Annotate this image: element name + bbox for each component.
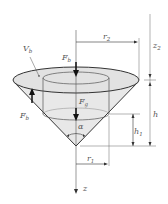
h-arrow-bottom	[149, 142, 152, 146]
r2-arrowhead	[134, 41, 138, 44]
z-axis-arrow	[74, 189, 78, 194]
label-r2: r2	[103, 32, 111, 42]
label-z: z	[82, 184, 88, 193]
label-z2: z2	[152, 41, 161, 51]
z2-arrow-bottom	[149, 74, 152, 78]
label-fb-left: Fb	[19, 111, 30, 121]
cone-buoyancy-diagram: Vb Fb Fg Fb α r2 z2 h h1 r1 z	[0, 0, 168, 204]
label-h: h	[153, 110, 158, 119]
vb-leader-dot	[38, 75, 40, 77]
h1-arrow-bottom	[132, 142, 135, 146]
label-alpha: α	[78, 122, 84, 131]
label-vb: Vb	[23, 44, 33, 54]
r1-arrowhead	[104, 163, 108, 166]
label-fb-top: Fb	[61, 53, 72, 63]
label-h1: h1	[134, 127, 143, 137]
h1-arrow-top	[132, 114, 135, 118]
h-arrow-top	[149, 82, 152, 86]
label-r1: r1	[87, 154, 94, 164]
